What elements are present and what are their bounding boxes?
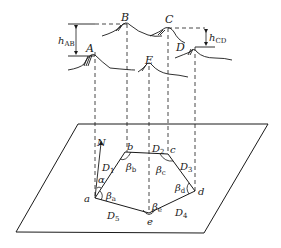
label-alpha: α bbox=[98, 174, 105, 185]
traverse-diagram: A B C D E hAB hCD a b c d e N D1 D2 D3 D… bbox=[0, 0, 281, 248]
label-N: N bbox=[96, 137, 107, 148]
label-beta-d: βd bbox=[174, 182, 186, 195]
label-E: E bbox=[144, 54, 153, 67]
label-b: b bbox=[127, 141, 133, 152]
label-D: D bbox=[175, 41, 185, 54]
label-c: c bbox=[170, 144, 176, 155]
label-e: e bbox=[147, 216, 153, 227]
label-A: A bbox=[85, 42, 94, 55]
label-D4: D4 bbox=[174, 207, 188, 220]
label-d: d bbox=[198, 186, 204, 197]
label-B: B bbox=[120, 11, 129, 24]
label-D5: D5 bbox=[106, 210, 120, 223]
label-hAB: hAB bbox=[58, 35, 75, 48]
label-beta-b: βb bbox=[125, 161, 137, 174]
height-arrows bbox=[76, 27, 206, 53]
label-D2: D2 bbox=[151, 143, 165, 156]
label-beta-e: βe bbox=[151, 201, 162, 214]
label-hCD: hCD bbox=[209, 32, 227, 45]
horizontal-plane bbox=[16, 124, 268, 233]
label-beta-c: βc bbox=[155, 164, 166, 177]
label-C: C bbox=[165, 13, 174, 26]
label-a: a bbox=[84, 193, 90, 204]
